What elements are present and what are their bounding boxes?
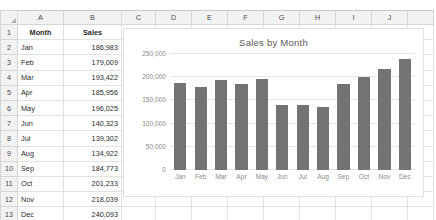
chart-bar[interactable]	[195, 87, 207, 170]
column-header-g[interactable]: G	[264, 11, 300, 25]
cell-f13[interactable]	[228, 207, 264, 220]
chart-bar[interactable]	[297, 105, 309, 170]
x-axis-tick-label: Feb	[195, 173, 206, 180]
cell-b3[interactable]: 179,009	[64, 55, 122, 70]
row-header-8[interactable]: 8	[1, 131, 18, 146]
cell-a11[interactable]: Oct	[18, 176, 64, 191]
cell-k13[interactable]	[408, 207, 434, 220]
chart-bar-group: Jun	[272, 54, 292, 170]
select-all-triangle-icon	[11, 18, 16, 23]
x-axis-tick-label: Mar	[215, 173, 226, 180]
y-axis-tick-label: 100,000	[142, 119, 166, 126]
cell-a6[interactable]: May	[18, 100, 64, 115]
cell-e13[interactable]	[192, 207, 228, 220]
cell-a7[interactable]: Jun	[18, 116, 64, 131]
cell-j13[interactable]	[372, 207, 408, 220]
cell-b6[interactable]: 196,025	[64, 100, 122, 115]
row-header-11[interactable]: 11	[1, 176, 18, 191]
cell-b10[interactable]: 184,773	[64, 161, 122, 176]
row-header-2[interactable]: 2	[1, 40, 18, 55]
row-header-1[interactable]: 1	[1, 25, 18, 40]
column-header-c[interactable]: C	[122, 11, 156, 25]
cell-a13[interactable]: Dec	[18, 207, 64, 220]
row-header-5[interactable]: 5	[1, 85, 18, 100]
chart-bar[interactable]	[378, 69, 390, 170]
chart-bar-group: Aug	[313, 54, 333, 170]
cell-a8[interactable]: Jul	[18, 131, 64, 146]
chart-bar-group: Jan	[170, 54, 190, 170]
x-axis-tick-label: Jul	[299, 173, 307, 180]
row-header-7[interactable]: 7	[1, 116, 18, 131]
cell-g13[interactable]	[264, 207, 300, 220]
cell-a12[interactable]: Nov	[18, 192, 64, 207]
chart-bar-group: Jul	[293, 54, 313, 170]
x-axis-tick-label: Nov	[379, 173, 391, 180]
cell-d13[interactable]	[156, 207, 192, 220]
column-header-h[interactable]: H	[300, 11, 336, 25]
chart-bar[interactable]	[256, 79, 268, 170]
y-axis-tick-label: 150,000	[142, 96, 166, 103]
cell-h13[interactable]	[300, 207, 336, 220]
cell-b11[interactable]: 201,233	[64, 176, 122, 191]
column-header-a[interactable]: A	[18, 11, 64, 25]
column-header-d[interactable]: D	[156, 11, 192, 25]
chart-bar-group: Sep	[333, 54, 353, 170]
cell-b5[interactable]: 185,956	[64, 85, 122, 100]
column-header-f[interactable]: F	[228, 11, 264, 25]
column-header-partial[interactable]	[408, 11, 434, 25]
chart-bar-group: Oct	[354, 54, 374, 170]
y-axis-tick-label: 50,000	[146, 142, 166, 149]
chart-bar[interactable]	[337, 84, 349, 170]
y-axis-tick-label: 200,000	[142, 73, 166, 80]
x-axis-tick-label: Aug	[317, 173, 329, 180]
chart-bar-group: Apr	[231, 54, 251, 170]
x-axis-tick-label: May	[256, 173, 268, 180]
cell-a5[interactable]: Apr	[18, 85, 64, 100]
x-axis-tick-label: Sep	[338, 173, 350, 180]
chart-bar[interactable]	[235, 84, 247, 170]
cell-b7[interactable]: 140,323	[64, 116, 122, 131]
row-header-3[interactable]: 3	[1, 55, 18, 70]
cell-b12[interactable]: 218,039	[64, 192, 122, 207]
y-axis-tick-label: 250,000	[142, 50, 166, 57]
chart-bar[interactable]	[399, 59, 411, 170]
chart-bar[interactable]	[215, 80, 227, 170]
cell-a10[interactable]: Sep	[18, 161, 64, 176]
chart-bar[interactable]	[174, 83, 186, 170]
chart-bar[interactable]	[358, 77, 370, 170]
cell-a4[interactable]: Mar	[18, 70, 64, 85]
chart-bar-group: May	[252, 54, 272, 170]
chart-bars: JanFebMarAprMayJunJulAugSepOctNovDec	[170, 54, 415, 170]
sales-bar-chart[interactable]: Sales by Month 050,000100,000150,000200,…	[123, 28, 424, 197]
cell-a3[interactable]: Feb	[18, 55, 64, 70]
row-header-13[interactable]: 13	[1, 207, 18, 220]
cell-c13[interactable]	[122, 207, 156, 220]
cell-b9[interactable]: 134,922	[64, 146, 122, 161]
y-axis-tick-label: 0	[162, 166, 166, 173]
column-header-b[interactable]: B	[64, 11, 122, 25]
table-row[interactable]: 13 Dec 240,093	[1, 207, 434, 220]
row-header-6[interactable]: 6	[1, 100, 18, 115]
column-header-e[interactable]: E	[192, 11, 228, 25]
cell-a2[interactable]: Jan	[18, 40, 64, 55]
cell-b8[interactable]: 139,302	[64, 131, 122, 146]
cell-b2[interactable]: 186,983	[64, 40, 122, 55]
cell-i13[interactable]	[336, 207, 372, 220]
chart-bar-group: Feb	[190, 54, 210, 170]
cell-b1[interactable]: Sales	[64, 25, 122, 40]
row-header-10[interactable]: 10	[1, 161, 18, 176]
select-all-corner[interactable]	[1, 11, 18, 25]
cell-b4[interactable]: 193,422	[64, 70, 122, 85]
row-header-9[interactable]: 9	[1, 146, 18, 161]
column-header-j[interactable]: J	[372, 11, 408, 25]
chart-bar[interactable]	[276, 105, 288, 170]
chart-title: Sales by Month	[124, 37, 423, 48]
x-axis-tick-label: Jun	[277, 173, 288, 180]
chart-bar[interactable]	[317, 107, 329, 170]
cell-a9[interactable]: Aug	[18, 146, 64, 161]
cell-a1[interactable]: Month	[18, 25, 64, 40]
row-header-12[interactable]: 12	[1, 192, 18, 207]
cell-b13[interactable]: 240,093	[64, 207, 122, 220]
column-header-i[interactable]: I	[336, 11, 372, 25]
row-header-4[interactable]: 4	[1, 70, 18, 85]
